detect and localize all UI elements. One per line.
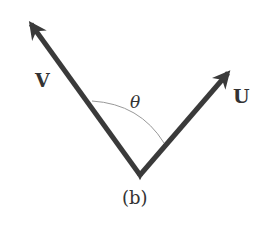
figure-caption: (b): [122, 189, 148, 207]
vertex-join: [138, 173, 142, 177]
angle-theta-label: θ: [130, 94, 140, 111]
vector-u-label: U: [233, 87, 250, 106]
vector-v-label: V: [35, 71, 50, 90]
vector-v-arrow: [31, 24, 140, 175]
vector-u-arrow: [140, 73, 228, 175]
